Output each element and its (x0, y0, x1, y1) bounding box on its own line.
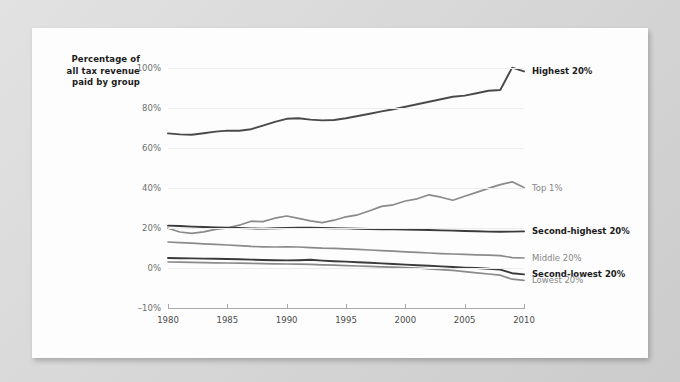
y-axis-title-line-1: Percentage of (44, 54, 140, 66)
gridline (168, 228, 524, 229)
x-axis-tick (227, 304, 228, 309)
gridline (168, 68, 524, 69)
y-axis-tick-label: 100% (137, 63, 161, 73)
x-axis-tick-label: 1980 (157, 315, 179, 325)
x-axis: 1980198519901995200020052010 (168, 308, 524, 309)
y-axis-tick-label: –10% (138, 303, 161, 313)
series-label: Highest 20% (532, 66, 592, 76)
gridline (168, 148, 524, 149)
x-axis-tick (346, 304, 347, 309)
y-axis-title: Percentage of all tax revenue paid by gr… (44, 54, 140, 89)
gridline (168, 268, 524, 269)
y-axis-tick-label: 60% (142, 143, 161, 153)
x-axis-tick-label: 1990 (276, 315, 298, 325)
x-axis-tick (405, 304, 406, 309)
y-axis-tick-label: 40% (142, 183, 161, 193)
series-line (168, 262, 524, 280)
series-label: Middle 20% (532, 253, 582, 263)
series-label: Second-highest 20% (532, 226, 630, 236)
x-axis-tick (465, 304, 466, 309)
x-axis-tick (168, 304, 169, 309)
y-axis-title-line-2: all tax revenue (44, 66, 140, 78)
y-axis-tick-label: 20% (142, 223, 161, 233)
chart-card: Percentage of all tax revenue paid by gr… (32, 28, 648, 358)
x-axis-tick (287, 304, 288, 309)
series-line (168, 242, 524, 258)
chart-figure: Percentage of all tax revenue paid by gr… (32, 28, 648, 358)
x-axis-tick (524, 304, 525, 309)
y-axis-title-line-3: paid by group (44, 77, 140, 89)
x-axis-tick-label: 1985 (217, 315, 239, 325)
x-axis-tick-label: 2010 (513, 315, 535, 325)
gridline (168, 108, 524, 109)
series-label: Top 1% (532, 183, 563, 193)
y-axis-tick-label: 80% (142, 103, 161, 113)
x-axis-tick-label: 2005 (454, 315, 476, 325)
series-line (168, 68, 524, 135)
y-axis-tick-label: 0% (148, 263, 162, 273)
gridline (168, 188, 524, 189)
x-axis-tick-label: 2000 (395, 315, 417, 325)
plot-area: 100%80%60%40%20%0%–10% (168, 68, 524, 308)
series-label: Lowest 20% (532, 275, 583, 285)
x-axis-tick-label: 1995 (335, 315, 357, 325)
series-line (168, 182, 524, 234)
